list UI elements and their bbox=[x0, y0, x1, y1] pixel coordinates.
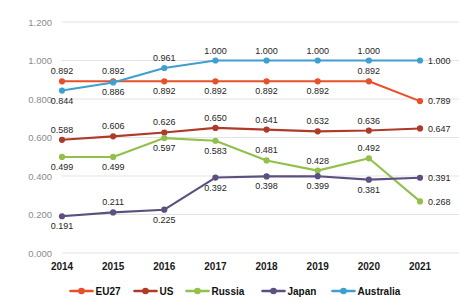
data-point-us-2014 bbox=[59, 137, 65, 143]
data-point-australia-2020 bbox=[366, 57, 372, 63]
x-axis-tick-label: 2020 bbox=[358, 261, 381, 272]
data-label-russia-2017: 0.583 bbox=[204, 146, 227, 156]
data-point-russia-2021 bbox=[417, 198, 423, 204]
data-label-japan-2018: 0.398 bbox=[255, 181, 278, 191]
data-point-us-2018 bbox=[263, 127, 269, 133]
y-axis-tick-label: 0.800 bbox=[28, 94, 52, 105]
x-axis-tick-label: 2018 bbox=[255, 261, 278, 272]
x-axis-tick-label: 2021 bbox=[409, 261, 432, 272]
data-label-us-2014: 0.588 bbox=[51, 125, 74, 135]
data-point-russia-2017 bbox=[212, 138, 218, 144]
data-point-eu27-2017 bbox=[212, 78, 218, 84]
data-point-japan-2018 bbox=[263, 173, 269, 179]
data-point-australia-2021 bbox=[417, 57, 423, 63]
data-point-russia-2015 bbox=[110, 154, 116, 160]
data-label-us-2019: 0.632 bbox=[306, 116, 329, 126]
data-label-russia-2016: 0.597 bbox=[153, 143, 176, 153]
data-label-australia-2015: 0.886 bbox=[102, 87, 125, 97]
x-axis-tick-label: 2017 bbox=[204, 261, 227, 272]
y-axis-tick-label: 1.200 bbox=[28, 17, 52, 28]
y-axis-tick-label: 1.000 bbox=[28, 55, 52, 66]
x-axis-tick-label: 2014 bbox=[51, 261, 74, 272]
x-axis-tick-label: 2016 bbox=[153, 261, 176, 272]
data-label-russia-2018: 0.481 bbox=[255, 145, 278, 155]
data-label-us-2017: 0.650 bbox=[204, 113, 227, 123]
data-label-japan-2021: 0.391 bbox=[428, 173, 451, 183]
data-label-us-2016: 0.626 bbox=[153, 117, 176, 127]
data-label-russia-2019: 0.428 bbox=[306, 156, 329, 166]
line-chart: 0.0000.2000.4000.6000.8001.0001.20020142… bbox=[0, 0, 459, 306]
data-point-us-2019 bbox=[315, 128, 321, 134]
legend-marker-australia bbox=[340, 288, 347, 295]
data-label-australia-2014: 0.844 bbox=[51, 96, 74, 106]
data-label-eu27-2020: 0.892 bbox=[358, 66, 381, 76]
data-point-eu27-2016 bbox=[161, 78, 167, 84]
data-point-russia-2020 bbox=[366, 155, 372, 161]
data-label-australia-2017: 1.000 bbox=[204, 46, 227, 56]
data-point-eu27-2018 bbox=[263, 78, 269, 84]
data-point-eu27-2020 bbox=[366, 78, 372, 84]
data-point-australia-2017 bbox=[212, 57, 218, 63]
legend-label-us[interactable]: US bbox=[160, 286, 174, 297]
data-label-eu27-2021: 0.789 bbox=[428, 96, 451, 106]
data-point-japan-2015 bbox=[110, 209, 116, 215]
data-point-russia-2019 bbox=[315, 168, 321, 174]
data-label-australia-2020: 1.000 bbox=[358, 46, 381, 56]
legend-label-australia[interactable]: Australia bbox=[358, 286, 401, 297]
data-label-eu27-2015: 0.892 bbox=[102, 66, 125, 76]
y-axis-tick-label: 0.400 bbox=[28, 171, 52, 182]
data-label-russia-2021: 0.268 bbox=[428, 197, 451, 207]
data-label-us-2021: 0.647 bbox=[428, 124, 451, 134]
legend-marker-russia bbox=[194, 288, 201, 295]
data-point-eu27-2019 bbox=[315, 78, 321, 84]
y-axis-tick-label: 0.000 bbox=[28, 248, 52, 259]
data-label-russia-2014: 0.499 bbox=[51, 162, 74, 172]
data-label-australia-2018: 1.000 bbox=[255, 46, 278, 56]
data-label-eu27-2018: 0.892 bbox=[255, 86, 278, 96]
data-point-russia-2014 bbox=[59, 154, 65, 160]
data-label-japan-2019: 0.399 bbox=[306, 181, 329, 191]
legend-label-eu27[interactable]: EU27 bbox=[96, 286, 121, 297]
series-line-japan bbox=[62, 176, 420, 216]
data-point-japan-2017 bbox=[212, 174, 218, 180]
data-point-eu27-2014 bbox=[59, 78, 65, 84]
legend-label-russia[interactable]: Russia bbox=[212, 286, 245, 297]
y-axis-tick-label: 0.600 bbox=[28, 132, 52, 143]
legend-marker-eu27 bbox=[78, 288, 85, 295]
data-point-us-2021 bbox=[417, 125, 423, 131]
data-point-australia-2015 bbox=[110, 79, 116, 85]
data-point-us-2020 bbox=[366, 127, 372, 133]
data-point-australia-2014 bbox=[59, 87, 65, 93]
data-label-australia-2016: 0.961 bbox=[153, 53, 176, 63]
data-point-japan-2014 bbox=[59, 213, 65, 219]
data-label-us-2015: 0.606 bbox=[102, 121, 125, 131]
data-label-japan-2015: 0.211 bbox=[102, 197, 124, 207]
data-point-japan-2020 bbox=[366, 177, 372, 183]
data-label-japan-2016: 0.225 bbox=[153, 215, 176, 225]
data-label-eu27-2014: 0.892 bbox=[51, 66, 74, 76]
data-point-russia-2018 bbox=[263, 157, 269, 163]
data-point-us-2015 bbox=[110, 133, 116, 139]
legend-marker-japan bbox=[270, 288, 277, 295]
data-label-australia-2019: 1.000 bbox=[306, 46, 329, 56]
data-label-eu27-2016: 0.892 bbox=[153, 86, 176, 96]
data-label-russia-2020: 0.492 bbox=[358, 143, 381, 153]
x-axis-tick-label: 2015 bbox=[102, 261, 125, 272]
data-point-australia-2019 bbox=[315, 57, 321, 63]
data-label-eu27-2019: 0.892 bbox=[306, 86, 329, 96]
chart-canvas: 0.0000.2000.4000.6000.8001.0001.20020142… bbox=[0, 0, 459, 306]
data-point-russia-2016 bbox=[161, 135, 167, 141]
data-label-eu27-2017: 0.892 bbox=[204, 86, 227, 96]
y-axis-tick-label: 0.200 bbox=[28, 209, 52, 220]
data-label-us-2020: 0.636 bbox=[358, 116, 381, 126]
data-label-us-2018: 0.641 bbox=[255, 115, 278, 125]
data-label-japan-2017: 0.392 bbox=[204, 183, 227, 193]
data-label-japan-2014: 0.191 bbox=[51, 221, 74, 231]
data-point-japan-2019 bbox=[315, 173, 321, 179]
data-point-japan-2021 bbox=[417, 175, 423, 181]
data-point-australia-2018 bbox=[263, 57, 269, 63]
data-point-us-2017 bbox=[212, 125, 218, 131]
data-point-australia-2016 bbox=[161, 65, 167, 71]
legend-label-japan[interactable]: Japan bbox=[288, 286, 317, 297]
data-point-eu27-2021 bbox=[417, 98, 423, 104]
